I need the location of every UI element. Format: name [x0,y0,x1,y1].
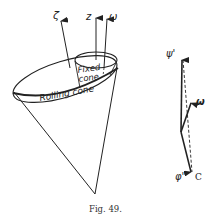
zeta-label: ζ [52,9,60,22]
cone-right-edge [95,68,117,194]
c-label: C [195,172,202,182]
angular-velocity-vector-diagram: ψ' ω φ' C [166,48,205,182]
omega-axis-arrow [104,19,107,68]
psi-prime-vector [181,60,182,132]
cone-left-edge [14,92,95,194]
fixed-cone-label-line2: cone [78,71,100,84]
figure-caption: Fig. 49. [89,204,122,214]
rolling-cone-diagram: ζ z ω Fixed cone Rolling cone [8,9,122,194]
rolling-cone-label: Rolling cone [39,83,96,103]
omega-axis-dashed [103,68,104,76]
omega-vector-label: ω [196,96,205,107]
omega-vector [181,103,191,132]
figure-canvas: ζ z ω Fixed cone Rolling cone ψ' ω φ' C … [0,0,216,223]
phi-prime-vector [181,132,191,172]
z-label: z [85,11,92,22]
psi-prime-label: ψ' [166,48,175,59]
omega-label: ω [109,11,117,22]
phi-prime-label: φ' [175,171,184,182]
